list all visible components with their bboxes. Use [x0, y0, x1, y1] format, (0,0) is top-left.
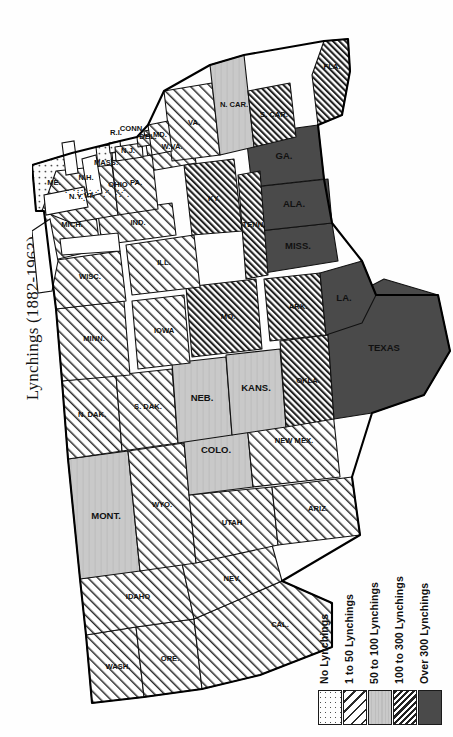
svg-text:N.H.: N.H. — [78, 173, 93, 182]
legend-label: No Lynchings — [318, 614, 330, 684]
svg-text:ARIZ.: ARIZ. — [308, 504, 328, 513]
svg-text:MD.: MD. — [153, 130, 167, 139]
svg-text:.: . — [126, 190, 128, 199]
svg-text:NEW MEX.: NEW MEX. — [274, 436, 312, 445]
svg-text:N.J.: N.J. — [121, 146, 135, 155]
svg-text:ME.: ME. — [47, 178, 61, 187]
svg-text:GA.: GA. — [275, 150, 292, 161]
svg-text:.: . — [114, 188, 116, 197]
legend-label: 100 to 300 Lynchings — [393, 576, 405, 684]
svg-text:TENN.: TENN. — [242, 220, 265, 229]
svg-text:UTAH: UTAH — [221, 518, 242, 527]
svg-text:COLO.: COLO. — [200, 444, 230, 455]
svg-text:CAL.: CAL. — [271, 620, 289, 629]
svg-text:IND.: IND. — [130, 218, 145, 227]
svg-text:S. DAK.: S. DAK. — [134, 402, 162, 411]
svg-text:W.VA.: W.VA. — [161, 142, 182, 151]
legend-swatch-100-300 — [393, 690, 417, 725]
legend-item: No Lynchings — [318, 540, 344, 725]
svg-text:.: . — [88, 184, 90, 193]
svg-text:MONT.: MONT. — [91, 510, 121, 521]
map-figure: Lynchings (1882-1963) — [0, 0, 453, 737]
map-legend: No Lynchings 1 to 50 Lynchings 50 to 100… — [318, 540, 443, 725]
svg-text:IDAHO: IDAHO — [125, 592, 150, 601]
svg-text:.: . — [108, 188, 110, 197]
svg-text:ORE.: ORE. — [160, 654, 179, 663]
svg-text:MASS.: MASS. — [93, 158, 117, 167]
svg-text:MINN.: MINN. — [83, 334, 105, 343]
legend-swatch-50-100 — [368, 690, 392, 725]
legend-item: 1 to 50 Lynchings — [343, 540, 369, 725]
svg-text:ALA.: ALA. — [282, 198, 304, 209]
svg-text:.: . — [122, 184, 124, 193]
legend-label: Over 300 Lynchings — [418, 583, 430, 684]
svg-text:MICH.: MICH. — [61, 220, 83, 229]
svg-text:.: . — [92, 190, 94, 199]
svg-text:N.Y.: N.Y. — [69, 192, 83, 201]
legend-swatch-1-50 — [343, 690, 367, 725]
svg-text:WISC.: WISC. — [79, 272, 101, 281]
legend-label: 1 to 50 Lynchings — [343, 594, 355, 684]
svg-text:TEXAS: TEXAS — [368, 342, 400, 353]
svg-text:WYO.: WYO. — [151, 500, 171, 509]
svg-text:OKLA.: OKLA. — [296, 376, 320, 385]
svg-text:NEB.: NEB. — [190, 392, 213, 403]
svg-text:MO.: MO. — [220, 312, 234, 321]
svg-text:PA.: PA. — [129, 178, 141, 187]
svg-text:NEV.: NEV. — [223, 574, 240, 583]
svg-text:ILL.: ILL. — [157, 258, 171, 267]
svg-text:.: . — [102, 190, 104, 199]
svg-text:KANS.: KANS. — [241, 382, 271, 393]
svg-text:N. CAR.: N. CAR. — [219, 100, 247, 109]
svg-text:VA.: VA. — [187, 118, 199, 127]
svg-text:IOWA: IOWA — [153, 326, 174, 335]
legend-swatch-over-300 — [418, 690, 442, 725]
legend-item: 50 to 100 Lynchings — [368, 540, 394, 725]
svg-text:KY.: KY. — [208, 194, 220, 203]
svg-text:FLA.: FLA. — [323, 62, 340, 71]
svg-text:.: . — [84, 186, 86, 195]
svg-text:MISS.: MISS. — [285, 240, 311, 251]
legend-item: 100 to 300 Lynchings — [393, 540, 419, 725]
svg-text:LA.: LA. — [336, 292, 351, 303]
legend-item: Over 300 Lynchings — [418, 540, 444, 725]
legend-swatch-no-lynchings — [318, 690, 342, 725]
svg-text:S. CAR.: S. CAR. — [260, 110, 288, 119]
legend-label: 50 to 100 Lynchings — [368, 582, 380, 684]
svg-text:ARK.: ARK. — [288, 302, 307, 311]
state-fla — [312, 39, 350, 125]
svg-text:N. DAK.: N. DAK. — [77, 410, 105, 419]
svg-text:.: . — [96, 184, 98, 193]
svg-text:WASH.: WASH. — [105, 662, 130, 671]
svg-text:.: . — [64, 186, 66, 195]
